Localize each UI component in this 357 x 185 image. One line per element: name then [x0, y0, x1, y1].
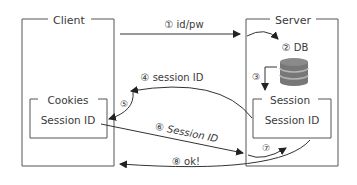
database-icon [280, 58, 308, 86]
arrow-step2 [247, 32, 278, 39]
step6-label: ⑥ Session ID [154, 121, 219, 145]
step4-label: ④ session ID [141, 72, 204, 83]
client-box: Client [22, 14, 114, 166]
session-auth-diagram: Client Cookies Session ID Server Session… [0, 0, 357, 185]
step3-label: ③ [252, 72, 260, 82]
session-box: Session Session ID [253, 94, 331, 138]
step5-label: ⑤ [120, 99, 128, 109]
server-title: Server [275, 14, 312, 27]
client-title: Client [53, 14, 86, 27]
step1-label: ① id/pw [164, 19, 203, 30]
arrow-step8 [120, 140, 310, 167]
session-title: Session [270, 94, 310, 106]
server-box: Server [246, 14, 338, 166]
step7-label: ⑦ [262, 143, 270, 153]
step8-label: ⑧ ok! [172, 156, 200, 167]
cookies-title: Cookies [47, 94, 88, 106]
arrow-step4 [131, 87, 252, 118]
db-label: ② DB [282, 42, 309, 53]
cookies-box: Cookies Session ID [30, 94, 107, 138]
arrow-step3 [265, 67, 277, 90]
session-session-id: Session ID [265, 114, 320, 126]
cookies-session-id: Session ID [41, 114, 96, 126]
